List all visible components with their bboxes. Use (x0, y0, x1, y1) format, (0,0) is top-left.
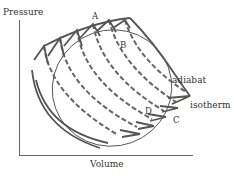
adiabat-label: adiabat (172, 76, 206, 85)
zigzag-upper (34, 20, 130, 64)
point-label-d: D (145, 107, 152, 116)
zigzag-lower-2 (160, 106, 178, 112)
isotherm-4 (93, 24, 164, 111)
point-label-a: A (92, 12, 98, 21)
adiabat-outer-left (32, 70, 100, 148)
zigzag-lower-1 (168, 96, 190, 104)
point-label-c: C (173, 116, 180, 125)
zigzag-lower-5 (120, 130, 140, 137)
y-axis-label: Pressure (3, 8, 43, 17)
zigzag-step-1 (34, 46, 48, 64)
zigzag-lower-4 (136, 122, 154, 129)
adiabats (32, 18, 190, 148)
pv-diagram: Pressure Volume A B D C adiabat isotherm (0, 0, 234, 177)
cycle-curve (36, 13, 188, 163)
zigzag-step-6 (113, 20, 130, 28)
isotherm-label: isotherm (190, 101, 231, 110)
x-axis-label: Volume (90, 160, 124, 169)
diagram-graphic (0, 0, 234, 177)
point-label-b: B (120, 41, 126, 50)
axes (19, 20, 193, 156)
